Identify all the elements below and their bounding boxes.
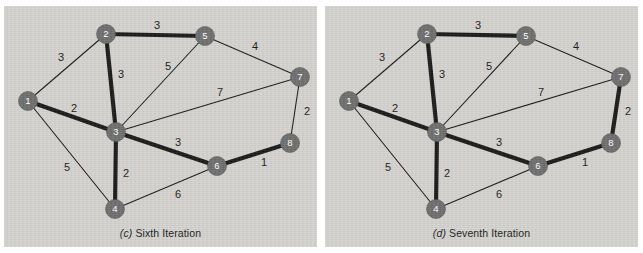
graph-edge-6-8: [217, 143, 290, 166]
caption-index-d: (d): [433, 227, 446, 239]
node-label-3: 3: [113, 126, 118, 137]
graph-edge-2-5: [427, 34, 526, 36]
graph-edge-6-8: [538, 143, 611, 166]
edge-weight-6-8: 1: [582, 156, 588, 168]
node-label-2: 2: [424, 28, 429, 39]
graph-edge-7-8: [290, 77, 300, 143]
node-label-8: 8: [608, 137, 613, 148]
graph-edge-2-3: [427, 34, 437, 132]
edge-weight-4-6: 6: [175, 188, 181, 200]
graph-node-4[interactable]: 4: [106, 200, 125, 219]
edge-weight-6-8: 1: [261, 156, 267, 168]
edge-weight-2-3: 3: [118, 68, 124, 80]
graph-node-5[interactable]: 5: [517, 27, 536, 46]
graph-edge-3-4: [115, 132, 116, 209]
edge-weight-3-4: 2: [444, 167, 450, 179]
graph-node-7[interactable]: 7: [612, 68, 631, 87]
graph-node-3[interactable]: 3: [428, 123, 447, 142]
graph-edge-4-6: [115, 166, 217, 209]
graph-edge-2-5: [106, 34, 205, 36]
graph-node-5[interactable]: 5: [196, 27, 215, 46]
edge-weight-5-7: 4: [252, 40, 258, 52]
graph-node-8[interactable]: 8: [281, 134, 300, 153]
node-label-1: 1: [25, 95, 30, 106]
panel-seventh-iteration: 325332537641212345678 (d) Seventh Iterat…: [325, 6, 638, 247]
graph-edge-1-2: [349, 34, 427, 101]
graph-edge-1-2: [28, 34, 106, 101]
edge-weight-1-3: 2: [392, 102, 398, 114]
panel-caption-sixth-iteration: (c) Sixth Iteration: [4, 227, 317, 239]
panel-sixth-iteration: 325332537641212345678 (c) Sixth Iteratio…: [4, 6, 317, 247]
node-label-1: 1: [346, 95, 351, 106]
graph-node-2[interactable]: 2: [418, 25, 437, 44]
edge-weight-3-6: 3: [496, 136, 502, 148]
edge-weight-1-3: 2: [71, 102, 77, 114]
edge-weight-5-7: 4: [573, 40, 579, 52]
graph-edge-3-7: [116, 77, 300, 132]
graph-diagram-sixth-iteration: 325332537641212345678: [4, 6, 317, 247]
graph-node-4[interactable]: 4: [427, 200, 446, 219]
edge-weight-3-7: 7: [217, 86, 223, 98]
node-label-5: 5: [523, 30, 528, 41]
node-label-4: 4: [112, 203, 117, 214]
edge-weight-layer: 3253325376412: [379, 19, 631, 200]
edge-weight-2-5: 3: [154, 19, 160, 31]
graph-edge-4-6: [436, 166, 538, 209]
graph-edge-3-7: [437, 77, 621, 132]
node-label-6: 6: [214, 160, 219, 171]
graph-diagram-seventh-iteration: 325332537641212345678: [325, 6, 638, 247]
node-label-5: 5: [202, 30, 207, 41]
edge-weight-2-3: 3: [439, 68, 445, 80]
edge-weight-7-8: 2: [625, 105, 631, 117]
graph-edge-7-8: [611, 77, 621, 143]
edge-weight-3-6: 3: [175, 136, 181, 148]
graph-node-6[interactable]: 6: [529, 157, 548, 176]
node-label-7: 7: [297, 71, 302, 82]
node-label-8: 8: [287, 137, 292, 148]
node-label-4: 4: [433, 203, 438, 214]
graph-edge-3-6: [116, 132, 217, 166]
graph-node-1[interactable]: 1: [19, 92, 38, 111]
graph-edge-3-5: [116, 36, 205, 132]
graph-edge-3-5: [437, 36, 526, 132]
edge-weight-3-4: 2: [123, 167, 129, 179]
graph-edge-3-6: [437, 132, 538, 166]
edge-weight-1-2: 3: [379, 51, 385, 63]
edge-weight-7-8: 2: [304, 105, 310, 117]
edge-weight-3-5: 5: [165, 60, 171, 72]
graph-node-7[interactable]: 7: [291, 68, 310, 87]
graph-node-2[interactable]: 2: [97, 25, 116, 44]
node-label-7: 7: [618, 71, 623, 82]
graph-node-8[interactable]: 8: [602, 134, 621, 153]
edge-weight-1-4: 5: [64, 161, 70, 173]
caption-text-d: Seventh Iteration: [449, 227, 530, 239]
graph-node-3[interactable]: 3: [107, 123, 126, 142]
edge-weight-3-7: 7: [538, 86, 544, 98]
graph-node-1[interactable]: 1: [340, 92, 359, 111]
edge-weight-3-5: 5: [486, 60, 492, 72]
caption-text-c: Sixth Iteration: [135, 227, 201, 239]
graph-node-6[interactable]: 6: [208, 157, 227, 176]
node-label-3: 3: [434, 126, 439, 137]
edge-weight-1-2: 3: [58, 51, 64, 63]
node-label-2: 2: [103, 28, 108, 39]
edge-weight-layer: 3253325376412: [58, 19, 310, 200]
caption-index-c: (c): [120, 227, 133, 239]
graph-iterations-figure: 325332537641212345678 (c) Sixth Iteratio…: [0, 0, 643, 253]
edge-weight-1-4: 5: [385, 161, 391, 173]
edge-weight-4-6: 6: [496, 188, 502, 200]
node-label-6: 6: [535, 160, 540, 171]
graph-edge-2-3: [106, 34, 116, 132]
panel-caption-seventh-iteration: (d) Seventh Iteration: [325, 227, 638, 239]
edge-weight-2-5: 3: [475, 19, 481, 31]
graph-edge-3-4: [436, 132, 437, 209]
